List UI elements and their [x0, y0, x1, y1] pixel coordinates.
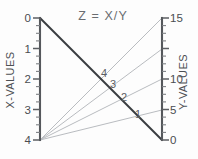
x-axis-title: X-VALUES [4, 52, 16, 109]
z-label-2: 2 [121, 91, 127, 103]
x-tick-label-2: 2 [25, 73, 31, 85]
z-label-group: 4 3 2 1 [101, 67, 141, 120]
y-tick-label-5: 5 [170, 104, 176, 116]
z-label-4: 4 [101, 67, 107, 79]
x-tick-label-4: 4 [25, 134, 32, 146]
y-axis-title: Y-VALUES [177, 54, 189, 110]
nomogram-figure: 0 1 2 3 4 X-VALUES [0, 0, 198, 159]
z-label-3: 3 [110, 78, 116, 90]
chart-title: Z = X/Y [78, 9, 128, 23]
y-tick-label-15: 15 [170, 12, 183, 24]
z-label-1: 1 [135, 108, 141, 120]
z-line-1 [40, 110, 162, 140]
x-tick-label-1: 1 [25, 43, 31, 55]
y-axis: 15 10 5 0 Y-VALUES [162, 12, 189, 146]
z-line-3 [40, 49, 162, 140]
z-line-2 [40, 79, 162, 140]
x-axis: 0 1 2 3 4 X-VALUES [4, 12, 40, 146]
y-tick-label-0: 0 [170, 134, 176, 146]
x-tick-label-3: 3 [25, 104, 31, 116]
x-tick-label-0: 0 [25, 12, 31, 24]
nomogram-canvas: 0 1 2 3 4 X-VALUES [0, 0, 198, 159]
